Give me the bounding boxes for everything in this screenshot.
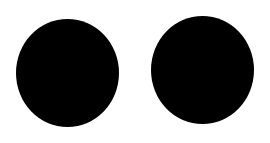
left-black-circle [16,19,119,127]
right-black-circle [151,16,254,124]
canvas [0,0,270,143]
